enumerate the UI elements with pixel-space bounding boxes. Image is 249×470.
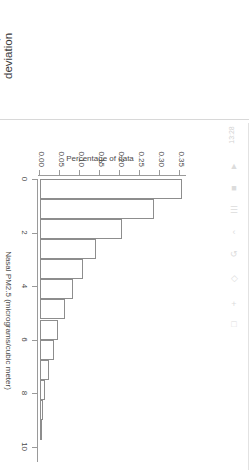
y-tick: 0.35	[179, 170, 180, 175]
x-tick	[32, 179, 37, 180]
y-tick: 0.30	[159, 170, 160, 175]
interpretation-bullet-list: • Compare percenta • Calculate measure s…	[0, 0, 16, 92]
y-tick-label: 0.35	[177, 151, 186, 167]
clock-label: 13:28	[224, 123, 240, 150]
y-tick-label: 0.25	[137, 151, 146, 167]
x-tick-label: 8	[20, 391, 29, 395]
y-tick-label: 0.00	[37, 151, 46, 167]
battery-icon[interactable]: ■	[227, 181, 241, 195]
document-panel: Interpretation • Compare percenta • Calc…	[0, 0, 249, 120]
histogram-bar	[40, 360, 49, 380]
x-tick-label: 10	[20, 442, 29, 451]
status-toolbar[interactable]: 13:28 ▲ ■ ☰ ‹ ↺ ◇ + □	[215, 125, 247, 335]
bullet-line: deviation	[2, 0, 16, 79]
list-item: • Calculate measure spread (e median, s …	[0, 0, 16, 92]
y-tick: 0.05	[59, 170, 60, 175]
histogram-bar	[40, 279, 73, 299]
histogram-bar	[40, 199, 154, 219]
histogram-bar	[40, 320, 58, 340]
y-tick: 0.00	[39, 170, 40, 175]
x-axis-title: Nasal PM2.5 (micrograms/cubic meter)	[4, 179, 13, 462]
grid-icon[interactable]: □	[227, 317, 241, 331]
histogram-bar	[40, 400, 43, 420]
refresh-icon[interactable]: ↺	[227, 247, 241, 261]
histogram-bar	[40, 219, 122, 239]
y-tick: 0.20	[119, 170, 120, 175]
x-tick	[32, 393, 37, 394]
bookmark-icon[interactable]: ◇	[227, 271, 241, 285]
share-icon[interactable]: ‹	[227, 225, 241, 239]
histogram-bar	[40, 380, 45, 400]
histogram-chart: 0.000.050.100.150.200.250.300.35 0246810…	[0, 123, 200, 470]
histogram-bar	[40, 259, 83, 279]
plot-area	[40, 179, 184, 460]
x-tick	[32, 286, 37, 287]
screenshot-root: Interpretation • Compare percenta • Calc…	[0, 0, 249, 470]
x-tick-label: 4	[20, 284, 29, 288]
x-axis-line	[37, 179, 38, 462]
chart-panel: 13:28 ▲ ■ ☰ ‹ ↺ ◇ + □ 0.000.050.100.150.…	[0, 123, 249, 470]
histogram-bar	[40, 239, 96, 259]
y-axis-line	[38, 175, 186, 176]
histogram-bar	[40, 179, 182, 199]
y-tick: 0.10	[79, 170, 80, 175]
histogram-bar	[40, 299, 65, 319]
histogram-bar	[40, 340, 54, 360]
wifi-icon[interactable]: ▲	[227, 159, 241, 173]
x-tick	[32, 340, 37, 341]
y-tick-label: 0.30	[157, 151, 166, 167]
y-axis-title: Percentage of data	[66, 154, 134, 163]
y-tick: 0.15	[99, 170, 100, 175]
x-tick-label: 0	[20, 177, 29, 181]
y-tick-label: 0.05	[57, 151, 66, 167]
histogram-rotation-wrapper: 0.000.050.100.150.200.250.300.35 0246810…	[0, 123, 200, 470]
x-tick	[32, 447, 37, 448]
plus-icon[interactable]: +	[227, 297, 241, 311]
y-tick: 0.25	[139, 170, 140, 175]
x-tick	[32, 233, 37, 234]
menu-icon[interactable]: ☰	[227, 203, 241, 217]
x-tick-label: 2	[20, 230, 29, 234]
x-tick-label: 6	[20, 337, 29, 341]
histogram-bar	[40, 420, 42, 440]
